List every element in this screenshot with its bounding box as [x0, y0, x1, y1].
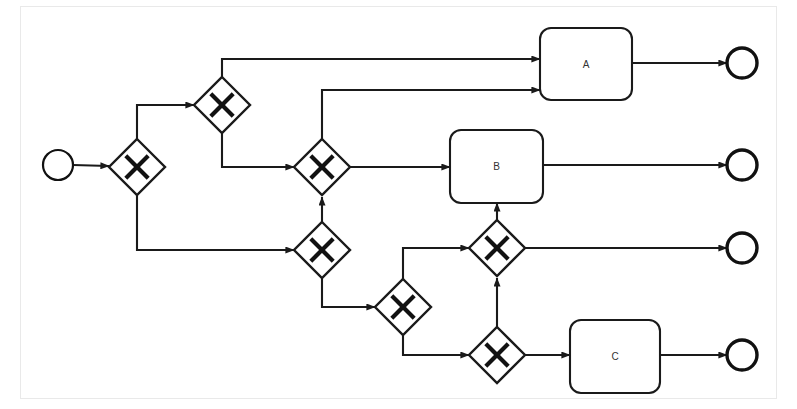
task-b[interactable]: B — [450, 130, 543, 203]
flow-gw2-to-gw3 — [222, 133, 294, 167]
tasks-layer: ABC — [450, 28, 660, 393]
task-c-label: C — [611, 351, 618, 362]
flow-gw2-to-task-a — [222, 59, 540, 77]
end-event-c[interactable] — [727, 340, 757, 370]
gateway-3[interactable] — [294, 139, 350, 195]
flow-start-to-gw1 — [73, 165, 109, 166]
end-event-b[interactable] — [727, 150, 757, 180]
gateway-6[interactable] — [469, 220, 525, 276]
flow-gw5-to-gw7 — [403, 335, 469, 355]
gateways-layer — [109, 77, 525, 383]
end-event-mid[interactable] — [727, 233, 757, 263]
task-b-label: B — [493, 161, 500, 172]
end-event-a[interactable] — [727, 48, 757, 78]
gateway-2[interactable] — [194, 77, 250, 133]
flow-gw1-to-gw2 — [137, 105, 194, 139]
gateway-4[interactable] — [294, 222, 350, 278]
task-c[interactable]: C — [570, 320, 660, 393]
gateway-1[interactable] — [109, 139, 165, 195]
bpmn-diagram: ABC — [0, 0, 797, 409]
gateway-7[interactable] — [469, 327, 525, 383]
flow-gw4-to-gw5 — [322, 278, 375, 307]
flow-gw1-to-gw4 — [137, 195, 294, 250]
gateway-5[interactable] — [375, 279, 431, 335]
task-a[interactable]: A — [540, 28, 632, 100]
start-event[interactable] — [43, 150, 73, 180]
task-a-label: A — [583, 59, 590, 70]
diagram-canvas: ABC — [0, 0, 797, 409]
page-frame — [21, 7, 777, 399]
flow-gw5-to-gw6 — [403, 248, 469, 279]
